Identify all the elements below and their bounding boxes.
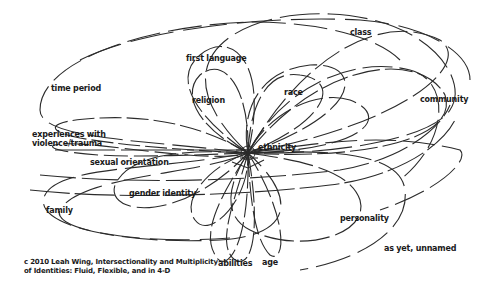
religion-loop bbox=[192, 69, 248, 153]
label-first-language: first language bbox=[186, 54, 247, 63]
label-personality: personality bbox=[340, 214, 389, 223]
label-sexual-orientation: sexual orientation bbox=[90, 158, 169, 167]
caption-line-2: of Identities: Fluid, Flexible, and in 4… bbox=[24, 267, 218, 276]
label-community: community bbox=[420, 95, 468, 104]
label-experiences: experiences withviolence/trauma bbox=[32, 130, 106, 148]
caption-line-1: c 2010 Leah Wing, Intersectionality and … bbox=[24, 258, 218, 267]
label-as-yet-unnamed: as yet, unnamed bbox=[384, 244, 456, 253]
label-family: family bbox=[46, 206, 73, 215]
label-abilities: abilities bbox=[218, 259, 252, 268]
upper-mid-loop bbox=[246, 65, 345, 153]
label-class: class bbox=[350, 28, 371, 37]
abilities-loop-2 bbox=[227, 153, 255, 261]
as-yet-unnamed-loop bbox=[248, 152, 405, 270]
label-time-period: time period bbox=[51, 84, 101, 93]
label-ethnicity: ethnicity bbox=[258, 143, 296, 152]
big-arc-right bbox=[248, 67, 439, 180]
label-age: age bbox=[262, 258, 278, 267]
gender-identity-loop-2 bbox=[191, 153, 248, 225]
label-religion: religion bbox=[192, 96, 225, 105]
label-gender-identity: gender identity bbox=[129, 189, 196, 198]
label-race: race bbox=[284, 88, 303, 97]
copyright-caption: c 2010 Leah Wing, Intersectionality and … bbox=[24, 258, 218, 276]
